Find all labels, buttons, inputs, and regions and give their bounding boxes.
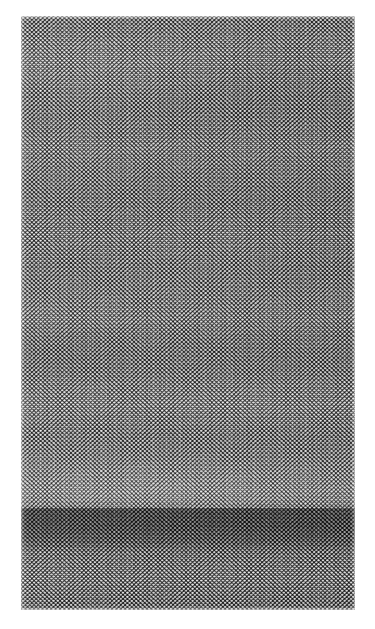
film-grain-overlay <box>21 16 355 610</box>
vertical-tone-gradient <box>21 16 355 610</box>
weave-thread-overlay <box>21 16 355 610</box>
horizontal-tone-gradient <box>21 16 355 610</box>
mesh-cell-lattice-secondary <box>21 16 355 610</box>
scan-edge-feather <box>21 16 355 610</box>
mesh-fabric-texture-image <box>21 16 355 610</box>
page-canvas <box>0 0 375 629</box>
plate-caption <box>21 612 355 626</box>
cloth-unevenness-overlay <box>21 16 355 610</box>
shadow-band <box>21 508 355 551</box>
mesh-cell-lattice-primary <box>21 16 355 610</box>
